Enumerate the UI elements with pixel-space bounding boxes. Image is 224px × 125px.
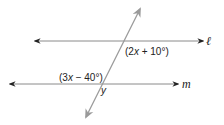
geometry-diagram: ℓ m (2x + 10°) (3x − 40°) y (0, 0, 224, 125)
line-l-label: ℓ (206, 34, 211, 48)
angle-label-y: y (100, 85, 107, 96)
angle-label-left: (3x − 40°) (59, 72, 103, 83)
angle-label-top: (2x + 10°) (125, 46, 169, 57)
transversal-line (86, 9, 140, 117)
line-m-label: m (182, 77, 191, 91)
